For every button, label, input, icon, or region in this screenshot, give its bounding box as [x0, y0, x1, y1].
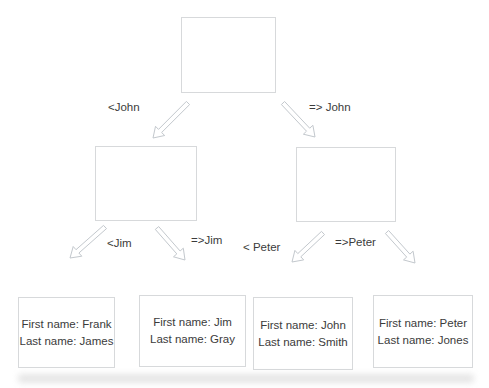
- edge-label-greater-equal-peter: =>Peter: [335, 236, 376, 248]
- leaf-last-name: Last name: Smith: [258, 334, 347, 351]
- right-child-node-box: [296, 147, 396, 222]
- left-child-node-box: [95, 146, 197, 221]
- edge-label-less-than-john: <John: [108, 101, 140, 113]
- leaf-record-peter-jones: First name: Peter Last name: Jones: [373, 295, 473, 368]
- arrow-left-child-to-leaf-0: [70, 225, 107, 258]
- arrow-root-to-left-child: [153, 101, 190, 138]
- arrow-right-child-to-leaf-3: [385, 231, 415, 264]
- leaf-record-frank-james: First name: Frank Last name: James: [18, 297, 115, 368]
- edge-label-greater-equal-john: => John: [309, 101, 351, 113]
- decision-tree-diagram: <John => John <Jim =>Jim < Peter =>Peter…: [0, 0, 489, 388]
- arrow-right-child-to-leaf-2: [292, 231, 325, 262]
- leaf-first-name: First name: Peter: [379, 315, 467, 332]
- edge-label-greater-equal-jim: =>Jim: [191, 234, 222, 246]
- arrow-left-child-to-leaf-1: [155, 227, 185, 260]
- root-node-box: [181, 17, 276, 93]
- leaf-last-name: Last name: Jones: [378, 332, 469, 349]
- leaf-first-name: First name: Frank: [21, 316, 111, 333]
- leaf-last-name: Last name: Gray: [150, 331, 235, 348]
- leaf-record-john-smith: First name: John Last name: Smith: [253, 297, 353, 370]
- leaf-record-jim-gray: First name: Jim Last name: Gray: [139, 295, 246, 367]
- scan-artifact-smudge: [18, 374, 474, 383]
- leaf-first-name: First name: Jim: [153, 314, 232, 331]
- edge-label-less-than-peter: < Peter: [243, 241, 280, 253]
- leaf-last-name: Last name: James: [20, 333, 114, 350]
- leaf-first-name: First name: John: [260, 317, 346, 334]
- edge-label-less-than-jim: <Jim: [107, 237, 132, 249]
